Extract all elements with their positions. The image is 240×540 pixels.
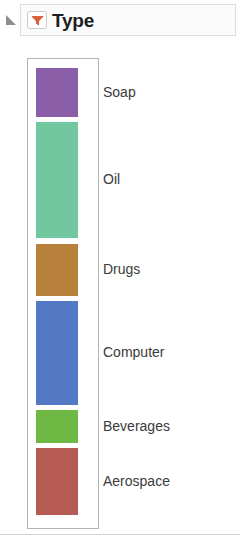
field-header[interactable]: Type (20, 4, 236, 36)
legend-swatch[interactable] (36, 68, 78, 117)
legend-label: Drugs (103, 262, 140, 276)
legend-swatch[interactable] (36, 122, 78, 238)
legend-container (27, 58, 99, 529)
legend-swatch[interactable] (36, 448, 78, 515)
legend-label: Beverages (103, 419, 170, 433)
page-title: Type (52, 11, 94, 30)
bottom-divider (0, 534, 240, 535)
filter-funnel-icon[interactable] (27, 11, 47, 29)
legend-label: Soap (103, 85, 136, 99)
collapse-triangle-icon[interactable] (3, 12, 19, 28)
legend-label: Oil (103, 172, 120, 186)
legend-label: Aerospace (103, 474, 170, 488)
legend-swatch[interactable] (36, 244, 78, 296)
legend-swatch[interactable] (36, 301, 78, 405)
legend-label: Computer (103, 345, 164, 359)
legend-swatch[interactable] (36, 410, 78, 443)
